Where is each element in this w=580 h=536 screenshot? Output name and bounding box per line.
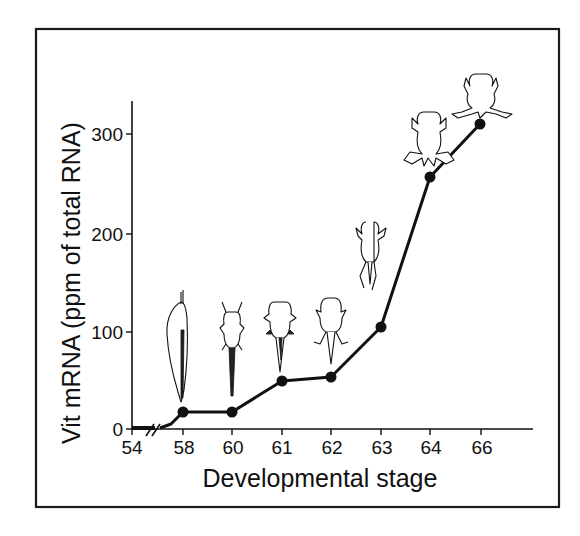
data-point [277,376,288,387]
x-tick-label: 62 [321,437,342,458]
x-ticks [132,429,481,435]
x-tick-label: 66 [471,437,492,458]
x-tick-label: 60 [222,437,243,458]
y-axis-label: Vit mRNA (ppm of total RNA) [57,122,85,444]
x-axis-label: Developmental stage [203,464,438,492]
x-tick-label: 54 [121,437,143,458]
data-point [178,407,189,418]
vit-mrna-chart: 0 100 200 300 54 58 60 61 62 63 64 66 De… [0,0,580,536]
tadpole-stage-58-illustration [167,290,187,402]
x-tick-label: 58 [173,437,194,458]
y-tick-label: 100 [91,322,123,343]
data-point [376,322,387,333]
y-ticks [126,134,132,429]
froglet-stage-63-illustration [356,222,386,290]
x-tick-labels: 54 58 60 61 62 63 64 66 [121,437,492,458]
x-tick-label: 63 [371,437,392,458]
x-tick-label: 64 [420,437,442,458]
data-point [425,172,436,183]
frog-stage-66-illustration [452,74,512,118]
data-point [326,372,337,383]
axis-break [132,424,160,436]
y-tick-label: 300 [91,124,123,145]
tadpole-stage-60-illustration [220,302,244,396]
y-tick-label: 200 [91,224,123,245]
tadpole-stage-62-illustration [314,298,348,364]
tadpole-stage-61-illustration [264,302,296,372]
data-point [227,407,238,418]
data-point [475,119,486,130]
data-markers [178,119,486,418]
y-tick-labels: 0 100 200 300 [91,124,123,440]
x-tick-label: 61 [271,437,292,458]
froglet-stage-64-illustration [404,112,454,166]
data-line [160,124,480,428]
